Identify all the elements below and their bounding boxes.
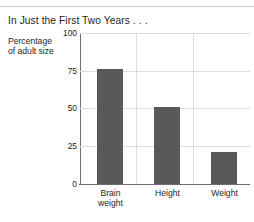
x-label-height-line-1: Height: [139, 188, 196, 198]
plot-area: [80, 33, 250, 184]
y-tick-label-50: 50: [68, 103, 77, 113]
y-tick-label-0: 0: [72, 179, 77, 189]
y-tick-label-75: 75: [68, 66, 77, 76]
x-label-brain-weight-line-1: Brain: [82, 188, 139, 198]
y-axis-tick-labels: 100 75 50 25 0: [52, 33, 77, 184]
bar-weight: [211, 152, 237, 184]
x-label-weight-line-1: Weight: [196, 188, 253, 198]
bar-brain-weight: [97, 69, 123, 184]
x-label-brain-weight-line-2: weight: [82, 198, 139, 208]
top-divider-rule: [0, 6, 254, 7]
x-label-height: Height: [139, 188, 196, 198]
gridline-100: [80, 33, 250, 34]
vertical-gridline-2: [193, 33, 194, 184]
bar-height: [154, 107, 180, 184]
x-label-weight: Weight: [196, 188, 253, 198]
chart-title: In Just the First Two Years . . .: [8, 15, 148, 26]
x-label-brain-weight: Brain weight: [82, 188, 139, 209]
vertical-gridline-1: [136, 33, 137, 184]
y-tick-label-25: 25: [68, 141, 77, 151]
y-tick-label-100: 100: [63, 28, 77, 38]
x-axis-baseline: [79, 184, 250, 185]
